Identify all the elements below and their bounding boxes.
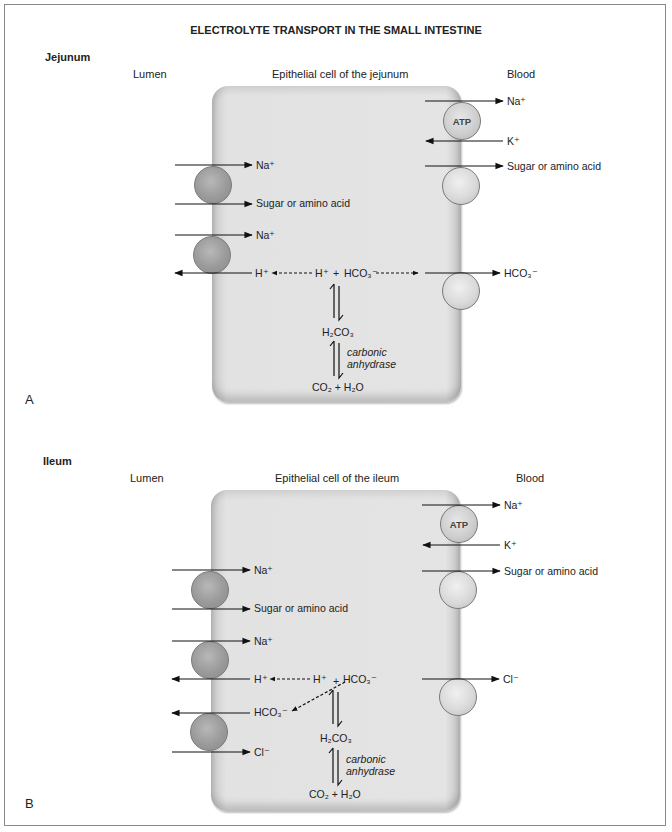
label-sugar-blood: Sugar or amino acid [504, 565, 598, 577]
bicarbonate-transporter [442, 272, 480, 310]
column-label-cell: Epithelial cell of the ileum [275, 472, 399, 484]
section-label-jejunum: Jejunum [45, 51, 90, 63]
enzyme-label-line2: anhydrase [346, 765, 395, 777]
label-na-2: Na⁺ [256, 229, 275, 241]
reaction-hco3: HCO₃⁻ [344, 267, 378, 279]
reaction-h: H⁺ [315, 267, 329, 279]
enzyme-label-line2: anhydrase [347, 358, 396, 370]
label-cl-lumen: Cl⁻ [254, 746, 270, 758]
label-na-2: Na⁺ [254, 635, 273, 647]
label-sugar-lumen: Sugar or amino acid [254, 602, 348, 614]
atp-label: ATP [453, 116, 471, 127]
na-k-atpase-pump: ATP [440, 505, 478, 543]
na-h-exchanger [191, 641, 229, 679]
column-label-lumen: Lumen [133, 68, 167, 80]
chloride-channel [439, 678, 477, 716]
na-sugar-cotransporter [191, 571, 229, 609]
atp-label: ATP [450, 519, 468, 530]
label-na-out: Na⁺ [507, 95, 526, 107]
reaction-plus: + [333, 267, 339, 279]
label-hco3-lumen: HCO₃⁻ [254, 706, 288, 718]
column-label-lumen: Lumen [130, 472, 164, 484]
section-label-ileum: Ileum [43, 455, 72, 467]
label-na-out: Na⁺ [504, 499, 523, 511]
reaction-hco3: HCO₃⁻ [343, 673, 377, 685]
label-h-lumen: H⁺ [254, 673, 268, 685]
reaction-h2co3: H₂CO₃ [322, 326, 354, 338]
figure-title: ELECTROLYTE TRANSPORT IN THE SMALL INTES… [0, 24, 672, 36]
epithelial-cell [212, 86, 461, 402]
na-k-atpase-pump: ATP [443, 102, 481, 140]
sugar-transporter-basolateral [442, 167, 480, 205]
label-na-1: Na⁺ [256, 159, 275, 171]
label-sugar-lumen: Sugar or amino acid [256, 197, 350, 209]
label-h-lumen: H⁺ [255, 267, 269, 279]
reaction-co2-h2o: CO₂ + H₂O [312, 381, 364, 393]
panel-letter-a: A [25, 392, 34, 407]
label-k-in: K⁺ [507, 135, 520, 147]
panel-letter-b: B [25, 796, 34, 811]
reaction-h: H⁺ [313, 673, 327, 685]
label-na-1: Na⁺ [254, 564, 273, 576]
enzyme-label-line1: carbonic [347, 346, 387, 358]
na-h-exchanger [193, 236, 231, 274]
reaction-plus: + [333, 675, 339, 687]
epithelial-cell [211, 490, 460, 811]
label-cl-blood: Cl⁻ [503, 673, 519, 685]
label-sugar-blood: Sugar or amino acid [507, 160, 601, 172]
enzyme-label-line1: carbonic [346, 753, 386, 765]
column-label-blood: Blood [507, 68, 535, 80]
label-k-in: K⁺ [504, 539, 517, 551]
sugar-transporter-basolateral [439, 571, 477, 609]
reaction-co2-h2o: CO₂ + H₂O [309, 788, 361, 800]
label-hco3-blood: HCO₃⁻ [504, 267, 538, 279]
na-sugar-cotransporter [194, 166, 232, 204]
reaction-h2co3: H₂CO₃ [320, 732, 352, 744]
column-label-blood: Blood [516, 472, 544, 484]
cl-hco3-exchanger [190, 713, 228, 751]
column-label-cell: Epithelial cell of the jejunum [272, 68, 408, 80]
